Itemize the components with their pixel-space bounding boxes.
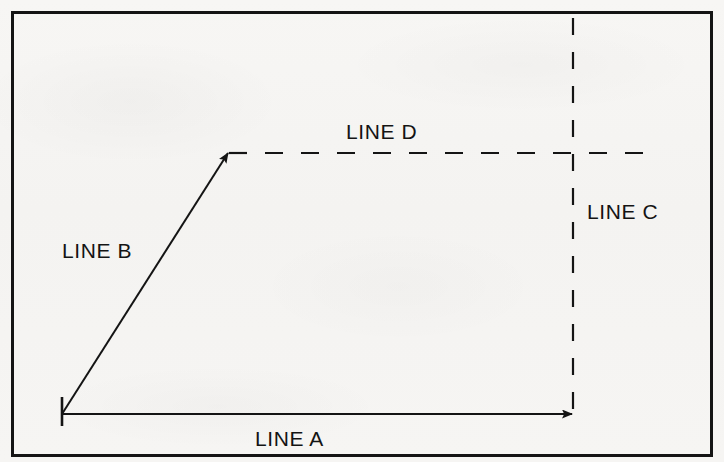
line-a-label: LINE A (255, 428, 324, 449)
line-c-label: LINE C (587, 201, 658, 222)
diagram-page: LINE A LINE B LINE C LINE D (0, 0, 724, 462)
diagram-frame (13, 13, 712, 456)
line-b-path (62, 153, 228, 414)
line-b-label: LINE B (62, 240, 132, 261)
vector-line-diagram-canvas (0, 0, 724, 462)
line-d-label: LINE D (346, 121, 417, 142)
